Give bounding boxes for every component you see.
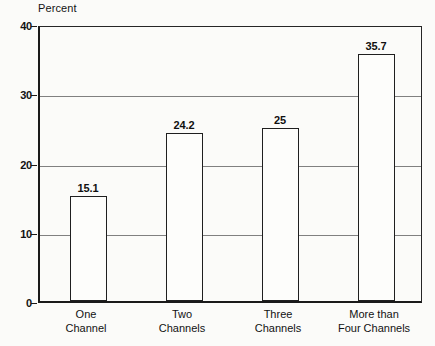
y-tick-mark — [31, 234, 37, 235]
bar-value-label: 24.2 — [154, 119, 214, 131]
bar — [358, 54, 395, 301]
y-axis-title: Percent — [38, 2, 77, 14]
bar-value-label: 25 — [250, 114, 310, 126]
bar — [262, 128, 299, 301]
x-label-line: More than — [314, 307, 434, 321]
y-tick-label: 10 — [6, 228, 32, 240]
x-label-line: Four Channels — [314, 321, 434, 335]
x-axis-category-labels: OneChannelTwoChannelsThreeChannelsMore t… — [38, 307, 422, 345]
y-axis-tick-labels: 010203040 — [0, 26, 32, 303]
bar — [166, 133, 203, 301]
bar — [70, 196, 107, 301]
y-tick-mark — [31, 165, 37, 166]
y-tick-mark — [31, 26, 37, 27]
y-tick-label: 20 — [6, 159, 32, 171]
x-category-label: More thanFour Channels — [314, 307, 434, 335]
plot-area: 15.124.22535.7 — [38, 26, 422, 303]
bar-value-label: 15.1 — [58, 182, 118, 194]
bar-value-label: 35.7 — [346, 40, 406, 52]
y-tick-label: 30 — [6, 89, 32, 101]
y-tick-label: 40 — [6, 20, 32, 32]
y-tick-mark — [31, 95, 37, 96]
bar-chart-figure: Percent 010203040 15.124.22535.7 OneChan… — [0, 0, 435, 346]
y-tick-mark — [31, 303, 37, 304]
